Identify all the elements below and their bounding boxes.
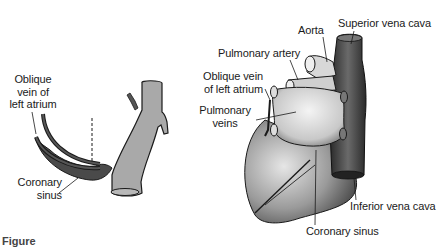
label-line: veins — [197, 117, 253, 130]
label-coronary-sinus-right: Coronary sinus — [306, 225, 379, 238]
left-atrium-shape — [273, 87, 345, 146]
coronary-sinus-shape — [36, 140, 112, 180]
label-line: sinus — [12, 189, 62, 202]
label-coronary-sinus-left: Coronary sinus — [12, 176, 62, 201]
vessel-opening — [111, 189, 139, 196]
figure-caption-partial: Figure — [2, 235, 36, 247]
label-line: Oblique vein — [197, 70, 263, 83]
leader-oblique-vein-right — [265, 89, 270, 100]
pulmonary-vein-stub — [271, 124, 278, 136]
label-aorta: Aorta — [298, 24, 324, 37]
small-vein-branch — [127, 93, 138, 110]
label-line: Oblique — [4, 73, 62, 86]
label-line: vein of — [4, 86, 62, 99]
label-superior-vena-cava: Superior vena cava — [338, 17, 431, 30]
label-oblique-vein-right: Oblique vein of left atrium — [197, 70, 263, 95]
pulmonary-vein-stub — [340, 128, 347, 140]
label-oblique-vein-left: Oblique vein of left atrium — [4, 73, 62, 111]
vena-cava-shape — [112, 81, 168, 196]
right-panel-drawing — [245, 31, 366, 225]
label-pulmonary-veins: Pulmonary veins — [197, 104, 253, 129]
pulmonary-vein-stub — [271, 86, 278, 98]
label-line: of left atrium — [197, 83, 263, 96]
label-line: Coronary — [12, 176, 62, 189]
label-inferior-vena-cava: Inferior vena cava — [350, 200, 436, 213]
label-line: left atrium — [4, 98, 62, 111]
label-pulmonary-artery: Pulmonary artery — [218, 47, 300, 60]
pulmonary-vein-stub — [341, 91, 348, 103]
label-line: Pulmonary — [197, 104, 253, 117]
leader-oblique-vein-left — [32, 112, 36, 134]
leader-pulmonary-artery — [290, 60, 298, 80]
